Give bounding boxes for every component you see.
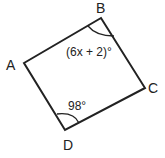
quadrilateral-diagram: A B C D (6x + 2)° 98°: [0, 0, 165, 158]
quadrilateral-abcd: [24, 18, 145, 130]
vertex-label-b: B: [96, 0, 105, 16]
vertex-label-a: A: [6, 57, 16, 73]
vertex-label-c: C: [148, 80, 158, 96]
diagram-canvas: A B C D (6x + 2)° 98°: [0, 0, 165, 158]
vertex-label-d: D: [63, 137, 73, 153]
angle-label-b: (6x + 2)°: [66, 45, 112, 59]
angle-label-d: 98°: [68, 99, 86, 113]
